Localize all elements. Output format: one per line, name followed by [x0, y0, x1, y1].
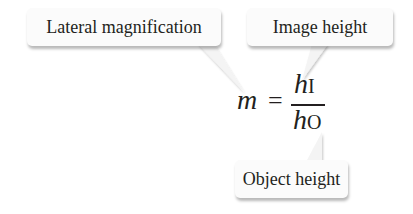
- object-height-pointer: [306, 132, 322, 162]
- fraction-denominator: hO: [293, 104, 321, 136]
- equals-sign: =: [268, 86, 283, 116]
- denominator-subscript: O: [307, 111, 321, 133]
- object-height-label: Object height: [243, 170, 340, 188]
- image-height-label: Image height: [273, 18, 367, 36]
- numerator-subscript: I: [308, 75, 315, 97]
- magnification-symbol: m: [237, 84, 257, 116]
- object-height-callout: Object height: [235, 160, 348, 198]
- lateral-magnification-label: Lateral magnification: [46, 18, 201, 36]
- lateral-magnification-callout: Lateral magnification: [27, 8, 221, 46]
- image-height-callout: Image height: [247, 8, 393, 46]
- fraction-numerator: hI: [294, 68, 315, 100]
